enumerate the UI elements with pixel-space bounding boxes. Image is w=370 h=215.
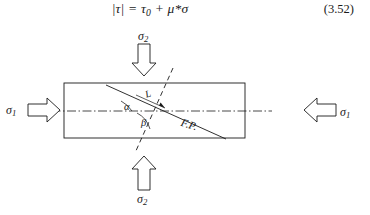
- sigma1-left-subscript: 1: [12, 108, 16, 118]
- up-arrow-icon: [132, 156, 156, 190]
- angle-label-alpha: α: [124, 102, 130, 113]
- stress-label-sigma2-top: σ2: [138, 30, 148, 44]
- stress-label-sigma1-left: σ1: [6, 104, 16, 118]
- equation-tau-zero-subscript: 0: [146, 7, 151, 18]
- rock-block-rectangle: [64, 83, 245, 138]
- equation-equals: =: [128, 1, 137, 16]
- equation-plus: +: [155, 1, 164, 16]
- equation-rhs-term: μ*σ: [168, 1, 189, 16]
- equation-number: (3.52): [324, 2, 354, 17]
- equation-tau-zero: τ0: [141, 1, 151, 16]
- sigma2-bottom-subscript: 2: [143, 197, 147, 207]
- angle-label-beta: β: [141, 118, 146, 129]
- down-arrow-icon: [132, 44, 156, 76]
- left-arrow-icon: [304, 98, 336, 122]
- stress-label-sigma2-bottom: σ2: [137, 193, 147, 207]
- sigma1-right-subscript: 1: [346, 110, 350, 120]
- sigma2-top-subscript: 2: [144, 34, 148, 44]
- dashed-plane-line: [135, 68, 173, 153]
- right-arrow-icon: [28, 98, 60, 122]
- stress-block-diagram: σ2 σ2 σ1 σ1 α β F.P. L: [0, 22, 370, 215]
- equation-lhs: |τ|: [112, 1, 125, 16]
- figure-page: |τ| = τ0 + μ*σ (3.52): [0, 0, 370, 215]
- equation-expression: |τ| = τ0 + μ*σ: [0, 1, 300, 18]
- equation-row: |τ| = τ0 + μ*σ (3.52): [0, 0, 370, 22]
- stress-label-sigma1-right: σ1: [340, 106, 350, 120]
